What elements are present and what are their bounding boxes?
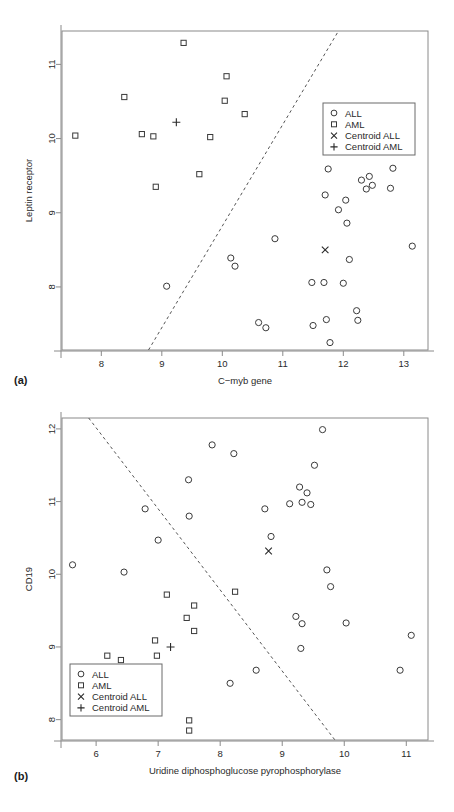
data-point-aml — [184, 615, 189, 620]
legend-item-label: ALL — [345, 108, 362, 119]
data-point-all — [228, 255, 234, 261]
data-point-aml — [151, 134, 156, 139]
data-point-aml — [192, 628, 197, 633]
x-tick-label: 12 — [338, 358, 349, 369]
data-point-aml — [118, 657, 123, 662]
data-point-all — [335, 207, 341, 213]
data-point-aml — [232, 589, 237, 594]
y-tick-label: 8 — [47, 717, 58, 722]
data-point-all — [227, 680, 233, 686]
series-centroid-all — [322, 247, 329, 254]
data-point-all — [366, 173, 372, 179]
x-tick-label: 10 — [217, 358, 228, 369]
data-point-all — [369, 182, 375, 188]
data-point-all — [186, 513, 192, 519]
data-point-aml — [152, 638, 157, 643]
x-tick-label: 10 — [339, 748, 350, 759]
data-point-aml — [154, 653, 159, 658]
legend-item-label: Centroid ALL — [92, 691, 147, 702]
x-tick-label: 13 — [399, 358, 410, 369]
data-point-all — [272, 236, 278, 242]
data-point-all — [310, 322, 316, 328]
data-point-all — [324, 567, 330, 573]
legend: ALLAMLCentroid ALLCentroid AML — [323, 103, 415, 155]
decision-boundary-line — [149, 31, 339, 350]
legend-item-label: ALL — [92, 669, 109, 680]
data-point-all — [311, 462, 317, 468]
data-point-aml — [153, 184, 158, 189]
data-point-all — [344, 220, 350, 226]
data-point-all — [268, 533, 274, 539]
data-point-all — [343, 197, 349, 203]
legend-item-label: Centroid AML — [92, 702, 150, 713]
data-point-all — [322, 192, 328, 198]
data-point-all — [397, 667, 403, 673]
data-point-all — [358, 177, 364, 183]
data-point-all — [253, 667, 259, 673]
data-point-aml — [73, 133, 78, 138]
data-point-aml — [208, 134, 213, 139]
data-point-all — [323, 316, 329, 322]
y-tick-label: 10 — [47, 133, 58, 144]
data-point-all — [256, 319, 262, 325]
data-point-all — [142, 506, 148, 512]
y-tick-label: 9 — [47, 644, 58, 649]
series-aml — [73, 40, 248, 189]
data-point-all — [309, 279, 315, 285]
y-tick-label: 12 — [47, 424, 58, 435]
data-point-all — [346, 256, 352, 262]
data-point-all — [299, 499, 305, 505]
data-point-aml — [242, 111, 247, 116]
data-point-all — [321, 279, 327, 285]
series-centroid-aml — [167, 643, 175, 651]
figure-root: 8910111213891011C−myb geneLeptin recepto… — [0, 0, 454, 812]
series-all — [164, 165, 416, 346]
x-tick-label: 8 — [99, 358, 104, 369]
data-point-aml — [192, 603, 197, 608]
data-point-all — [308, 501, 314, 507]
centroid-aml-marker — [172, 118, 180, 126]
data-point-aml — [122, 94, 127, 99]
data-point-aml — [224, 74, 229, 79]
data-point-all — [262, 506, 268, 512]
x-tick-label: 6 — [93, 748, 98, 759]
series-centroid-aml — [172, 118, 180, 126]
y-tick-label: 11 — [47, 497, 58, 507]
panel-b: 6789101189101112Uridine diphosphoglucose… — [0, 400, 454, 812]
data-point-aml — [164, 592, 169, 597]
plot-frame — [62, 31, 428, 350]
series-centroid-all — [265, 548, 272, 555]
data-point-aml — [197, 172, 202, 177]
data-point-all — [155, 537, 161, 543]
panel-a: 8910111213891011C−myb geneLeptin recepto… — [0, 0, 454, 400]
decision-boundary-group — [149, 31, 339, 350]
y-tick-label: 10 — [47, 569, 58, 580]
y-tick-label: 8 — [47, 284, 58, 289]
centroid-aml-marker — [167, 643, 175, 651]
x-axis-title: C−myb gene — [218, 375, 272, 386]
x-tick-label: 11 — [401, 748, 411, 759]
panel-a-label: (a) — [14, 374, 27, 386]
data-point-aml — [187, 718, 192, 723]
data-point-all — [355, 317, 361, 323]
data-point-all — [296, 484, 302, 490]
data-point-all — [409, 243, 415, 249]
data-point-all — [387, 185, 393, 191]
scatter-plot-b: 6789101189101112Uridine diphosphoglucose… — [0, 400, 454, 812]
data-point-all — [231, 451, 237, 457]
scatter-plot-a: 8910111213891011C−myb geneLeptin recepto… — [0, 0, 454, 400]
x-tick-label: 11 — [278, 358, 288, 369]
x-tick-label: 9 — [280, 748, 285, 759]
centroid-all-marker — [322, 247, 329, 254]
data-point-all — [327, 339, 333, 345]
series-all — [69, 427, 414, 687]
data-point-all — [340, 280, 346, 286]
data-point-aml — [181, 40, 186, 45]
y-tick-label: 9 — [47, 210, 58, 215]
legend-item-label: Centroid ALL — [345, 130, 400, 141]
legend: ALLAMLCentroid ALLCentroid AML — [70, 664, 162, 716]
data-point-aml — [222, 98, 227, 103]
data-point-all — [69, 562, 75, 568]
data-point-all — [363, 186, 369, 192]
y-tick-label: 11 — [47, 59, 58, 69]
